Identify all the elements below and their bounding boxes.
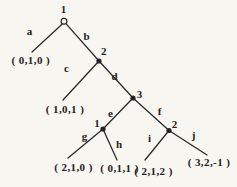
edge-c-label: c: [64, 62, 69, 74]
edge-i-label: i: [148, 132, 151, 144]
edge-d-label: d: [111, 70, 117, 82]
edge-g-label: g: [82, 130, 88, 142]
leaf-payoff-4: ( 0,1,1 ): [100, 162, 138, 175]
node-n4-marker: [100, 126, 105, 131]
leaf-payoff-2: ( 1,0,1 ): [46, 103, 84, 116]
edge-h-line: [103, 129, 117, 160]
node-n3-marker: [130, 95, 135, 100]
node-n5-label: 2: [172, 118, 178, 130]
edge-f-line: [133, 98, 169, 131]
node-root-marker: [61, 18, 67, 24]
edge-b-line: [66, 23, 99, 61]
node-root-label: 1: [61, 3, 67, 15]
edge-h-label: h: [116, 138, 122, 150]
node-n4-label: 1: [94, 117, 100, 129]
node-n3-label: 3: [137, 88, 143, 100]
edge-j-label: j: [191, 129, 196, 141]
node-n2-label: 2: [101, 45, 107, 57]
edge-a-label: a: [27, 25, 33, 37]
node-n2-marker: [96, 58, 101, 63]
edge-f-label: f: [158, 105, 162, 117]
edge-e-label: e: [108, 107, 113, 119]
leaf-payoff-3: ( 2,1,0 ): [54, 161, 92, 174]
edge-a-line: [32, 24, 63, 52]
leaf-payoff-6: ( 3,2,-1 ): [188, 156, 231, 169]
leaf-payoff-1: ( 0,1,0 ): [12, 54, 50, 67]
edge-b-label: b: [83, 30, 89, 42]
edge-j-line: [169, 131, 207, 156]
game-tree-canvas: 1 2 3 1 2 a b c d e f g h i j ( 0,1,0 ) …: [0, 0, 237, 187]
game-tree-figure: 1 2 3 1 2 a b c d e f g h i j ( 0,1,0 ) …: [0, 0, 237, 187]
leaf-payoff-5: ( 2,1,2 ): [134, 165, 172, 178]
